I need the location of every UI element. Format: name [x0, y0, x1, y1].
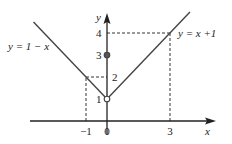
piecewise-graph: x y −1031234 y = 1 − x y = x +1 [0, 0, 232, 144]
x-tick-label: 3 [167, 125, 173, 137]
y-tick-label: 2 [112, 71, 118, 83]
y-tick-label: 1 [96, 93, 102, 105]
y-tick-label: 3 [96, 49, 102, 61]
series-line-1 [107, 12, 190, 99]
open-point [104, 96, 110, 102]
series-label-left: y = 1 − x [7, 40, 49, 52]
x-axis-label: x [204, 125, 210, 137]
y-tick-label: 4 [96, 27, 102, 39]
y-axis-label: y [95, 11, 101, 23]
series-label-right: y = x +1 [177, 27, 216, 39]
filled-point [104, 52, 110, 58]
x-tick-label: 0 [104, 125, 110, 137]
x-tick-label: −1 [80, 125, 92, 137]
